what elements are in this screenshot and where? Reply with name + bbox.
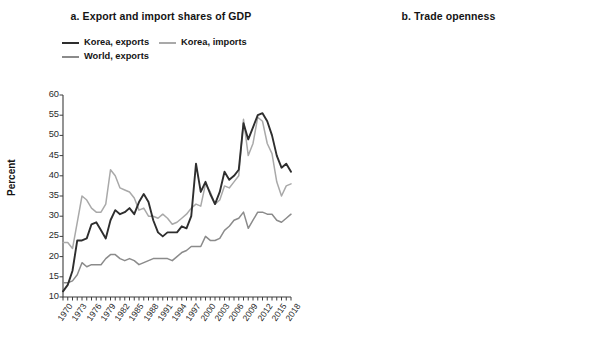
panel-a-y-tick-label: 25 <box>49 232 59 241</box>
legend-label-korea-imports: Korea, imports <box>181 38 247 47</box>
panel-a-y-tick-label: 15 <box>49 272 59 281</box>
panel-a-series-korea-imports <box>63 117 291 248</box>
panel-a-x-tick-label: 2012 <box>256 302 274 323</box>
legend-label-korea-exports: Korea, exports <box>84 38 149 47</box>
panel-a-y-tick-label: 20 <box>49 252 59 261</box>
legend-swatch-world-exports <box>62 56 79 58</box>
panel-a-title: a. Export and import shares of GDP <box>0 10 300 22</box>
panel-a-y-tick-label: 50 <box>49 131 59 140</box>
legend-item-korea-imports[interactable]: Korea, imports <box>159 38 247 47</box>
panel-a-y-tick-label: 60 <box>49 90 59 99</box>
panel-a-y-tick-label: 55 <box>49 111 59 120</box>
panel-b-title: b. Trade openness <box>300 10 593 22</box>
panel-a-y-tick-label: 40 <box>49 171 59 180</box>
legend-swatch-korea-imports <box>159 42 176 44</box>
panel-a-x-tick-label: 1973 <box>71 302 89 323</box>
panel-a-x-tick-label: 1997 <box>185 302 203 323</box>
legend-swatch-korea-exports <box>62 42 79 44</box>
legend-item-korea-exports[interactable]: Korea, exports <box>62 38 149 47</box>
legend-label-world-exports: World, exports <box>84 52 149 61</box>
panel-a-x-tick-label: 1985 <box>128 302 146 323</box>
panel-a-y-tick-label: 45 <box>49 151 59 160</box>
panel-a-y-axis-title: Percent <box>6 159 17 196</box>
panel-a-y-tick-label: 10 <box>49 292 59 301</box>
panel-a-legend: Korea, exports Korea, imports World, exp… <box>62 38 247 62</box>
panel-b: b. Trade openness Korea, Rep. United Sta… <box>300 0 593 346</box>
legend-item-world-exports[interactable]: World, exports <box>62 52 149 61</box>
panel-a-y-tick-label: 30 <box>49 212 59 221</box>
figure-container: a. Export and import shares of GDP Korea… <box>0 0 593 346</box>
panel-a-svg <box>63 95 291 297</box>
panel-a: a. Export and import shares of GDP Korea… <box>0 0 300 346</box>
panel-a-x-tick-label: 1988 <box>142 302 160 323</box>
panel-a-x-tick-label: 2000 <box>199 302 217 323</box>
panel-a-x-tick-label: 1976 <box>85 302 103 323</box>
panel-a-plot-area: 1015202530354045505560197019731976197919… <box>63 95 291 297</box>
panel-a-x-tick-label: 2009 <box>242 302 260 323</box>
panel-a-y-tick-label: 35 <box>49 191 59 200</box>
